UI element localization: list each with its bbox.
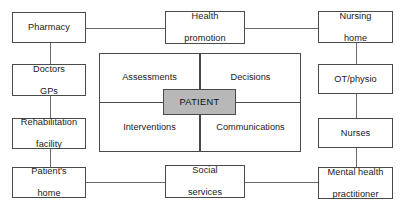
node-rehabilitation-facility: Rehabilitationfacility xyxy=(12,118,86,149)
node-doctors-gps: DoctorsGPs xyxy=(12,64,86,96)
node-nursing-home: Nursinghome xyxy=(318,11,393,43)
node-nurses-label: Nurses xyxy=(339,128,372,139)
quadrant-decisions-label: Decisions xyxy=(231,72,271,83)
connector-patients-home-social-services xyxy=(84,182,170,183)
connector-pharmacy-doctors xyxy=(50,40,51,66)
node-health-promotion: Healthpromotion xyxy=(165,11,245,44)
node-mental-health-practitioner-label: Mental healthpractitioner xyxy=(324,167,388,200)
node-rehabilitation-facility-line1: Rehabilitation xyxy=(19,117,79,128)
node-health-promotion-label: Healthpromotion xyxy=(180,11,229,44)
node-mental-health-practitioner-line2: practitioner xyxy=(326,189,386,200)
node-nursing-home-line1: Nursing xyxy=(337,11,373,22)
node-patients-home-line1: Patient's xyxy=(29,166,68,177)
quadrant-interventions-label: Interventions xyxy=(123,122,176,133)
node-doctors-gps-line2: GPs xyxy=(31,86,67,97)
node-ot-physio-label: OT/physio xyxy=(332,74,378,85)
node-patients-home-line2: home xyxy=(29,188,68,199)
node-social-services: Socialservices xyxy=(165,165,245,198)
care-network-diagram: Assessments Decisions Interventions Comm… xyxy=(0,0,400,209)
connector-ot-physio-nurses xyxy=(356,92,357,120)
patient-node-label: PATIENT xyxy=(180,97,220,107)
node-nursing-home-line2: home xyxy=(337,33,373,44)
node-rehabilitation-facility-label: Rehabilitationfacility xyxy=(17,117,81,150)
node-social-services-label: Socialservices xyxy=(184,165,226,198)
node-health-promotion-line2: promotion xyxy=(182,33,227,44)
node-rehabilitation-facility-line2: facility xyxy=(19,139,79,150)
quadrant-assessments-label: Assessments xyxy=(122,72,177,83)
node-patients-home: Patient'shome xyxy=(12,167,86,198)
node-pharmacy: Pharmacy xyxy=(12,12,86,43)
node-social-services-line1: Social xyxy=(186,165,224,176)
connector-pharmacy-health-promotion xyxy=(84,28,170,29)
node-nursing-home-label: Nursinghome xyxy=(335,11,375,44)
node-pharmacy-label: Pharmacy xyxy=(26,22,72,33)
node-mental-health-practitioner: Mental healthpractitioner xyxy=(318,167,393,199)
node-patients-home-label: Patient'shome xyxy=(27,166,70,199)
node-social-services-line2: services xyxy=(186,187,224,198)
connector-nursing-home-ot-physio xyxy=(356,40,357,66)
quadrant-communications-label: Communications xyxy=(216,122,284,133)
node-ot-physio: OT/physio xyxy=(318,64,393,94)
node-mental-health-practitioner-line1: Mental health xyxy=(326,167,386,178)
node-doctors-gps-line1: Doctors xyxy=(31,64,67,75)
node-nurses: Nurses xyxy=(318,118,393,148)
node-health-promotion-line1: Health xyxy=(182,11,227,22)
patient-node: PATIENT xyxy=(163,89,236,115)
node-doctors-gps-label: DoctorsGPs xyxy=(29,64,69,97)
